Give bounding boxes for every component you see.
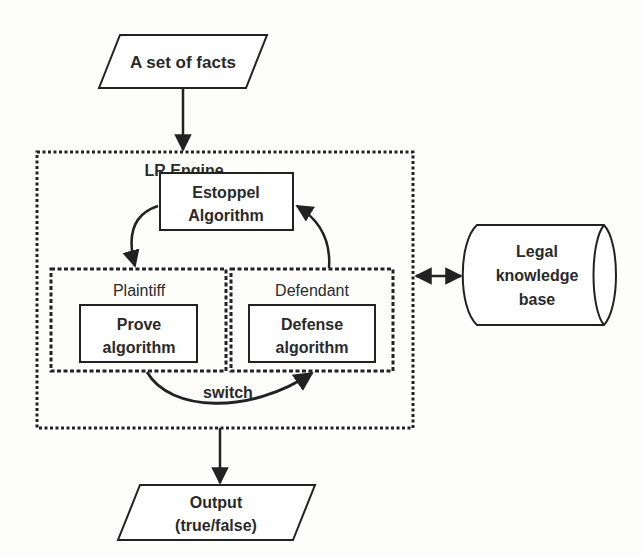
kb-line1: Legal	[516, 243, 558, 260]
arrow-estoppel-to-plaintiff	[132, 206, 158, 266]
defense-line2: algorithm	[276, 339, 349, 356]
legal-knowledge-base-node: Legal knowledge base	[463, 225, 616, 325]
defendant-container: Defendant Defense algorithm	[231, 269, 393, 371]
input-facts-label: A set of facts	[130, 53, 236, 72]
switch-label: switch	[203, 384, 253, 401]
prove-line2: algorithm	[103, 339, 176, 356]
plaintiff-title: Plaintiff	[113, 282, 166, 299]
estoppel-line1: Estoppel	[192, 184, 260, 201]
output-line1: Output	[190, 494, 243, 511]
output-line2: (true/false)	[175, 517, 257, 534]
prove-line1: Prove	[117, 316, 162, 333]
plaintiff-container: Plaintiff Prove algorithm	[51, 269, 226, 371]
lr-engine-diagram: A set of facts LR Engine Estoppel Algori…	[0, 0, 642, 557]
defense-line1: Defense	[281, 316, 343, 333]
input-facts-node: A set of facts	[99, 35, 267, 88]
kb-line3: base	[519, 291, 556, 308]
kb-line2: knowledge	[496, 267, 579, 284]
arrow-defendant-to-estoppel	[297, 206, 329, 268]
output-node: Output (true/false)	[118, 485, 315, 540]
estoppel-algorithm-node: Estoppel Algorithm	[160, 173, 293, 230]
defendant-title: Defendant	[275, 282, 349, 299]
estoppel-line2: Algorithm	[188, 207, 264, 224]
